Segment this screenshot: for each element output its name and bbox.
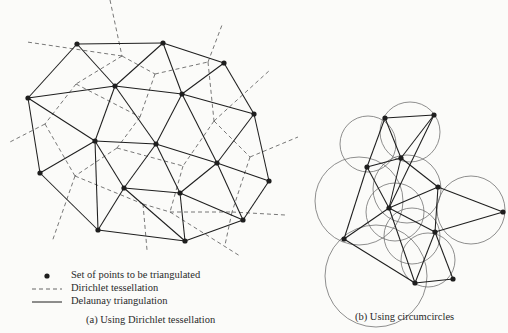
delaunay-edge: [180, 163, 217, 193]
point-marker: [412, 280, 417, 285]
dirichlet-edge: [232, 157, 250, 212]
point-marker: [431, 112, 436, 117]
delaunay-edge: [115, 86, 156, 144]
dirichlet-edge: [250, 137, 298, 157]
caption-left: (a) Using Dirichlet tessellation: [86, 314, 215, 325]
delaunay-edge: [435, 212, 503, 232]
point-marker: [182, 238, 187, 243]
point-marker: [153, 141, 158, 146]
delaunay-edge: [180, 193, 185, 241]
dirichlet-edge: [225, 212, 232, 245]
delaunay-edge: [243, 181, 269, 220]
dirichlet-edge: [183, 121, 214, 166]
delaunay-edge: [98, 188, 124, 230]
point-marker: [251, 111, 256, 116]
delaunay-edge: [344, 239, 415, 283]
point-marker: [121, 185, 126, 190]
delaunay-edge: [28, 44, 77, 98]
delaunay-edge: [224, 63, 254, 114]
figure: Set of points to be triangulated Dirichl…: [0, 0, 508, 333]
delaunay-edge: [217, 114, 254, 163]
delaunay-edge: [115, 43, 163, 86]
dirichlet-edge: [110, 0, 122, 56]
point-marker: [160, 40, 165, 45]
dirichlet-edge: [117, 148, 183, 166]
delaunay-edge: [95, 141, 156, 144]
point-marker: [179, 91, 184, 96]
delaunay-edge: [438, 187, 503, 212]
point-marker: [364, 164, 369, 169]
point-marker: [25, 95, 30, 100]
delaunay-edge: [124, 188, 185, 241]
circumcircle: [437, 176, 505, 244]
circumcircle: [366, 183, 424, 241]
legend-item-delaunay: Delaunay triangulation: [71, 295, 168, 306]
delaunay-edge: [28, 98, 95, 141]
dirichlet-edge: [75, 176, 143, 204]
dirichlet-edge: [52, 176, 75, 242]
delaunay-edge: [124, 144, 156, 188]
dirichlet-edge: [143, 204, 147, 250]
dirichlet-edge: [76, 56, 122, 84]
circumcircles: [315, 102, 505, 327]
delaunay-edge: [401, 115, 434, 158]
point-marker: [500, 209, 505, 214]
legend-item-dirichlet: Dirichlet tessellation: [71, 282, 158, 293]
delaunay-edge: [95, 141, 124, 188]
delaunay-edge: [185, 220, 243, 241]
delaunay-edge: [385, 115, 434, 118]
point-marker: [74, 41, 79, 46]
delaunay-edge: [156, 144, 217, 163]
point-marker: [398, 155, 403, 160]
delaunay-edge: [156, 94, 182, 144]
delaunay-edge: [344, 208, 389, 239]
point-marker: [95, 227, 100, 232]
legend-dot-icon: [44, 273, 49, 278]
point-marker: [432, 229, 437, 234]
delaunay-edge: [367, 118, 385, 167]
delaunay-edge: [124, 188, 180, 193]
point-marker: [266, 178, 271, 183]
circumcircle: [373, 155, 441, 223]
dirichlet-edge: [45, 84, 76, 124]
delaunay-edge: [367, 167, 389, 208]
dirichlet-edge: [140, 74, 155, 117]
delaunay-edge: [254, 114, 269, 181]
dirichlet-edge: [45, 124, 75, 176]
legend-symbols: [32, 273, 62, 302]
legend-item-points: Set of points to be triangulated: [71, 269, 200, 280]
point-set-right: [341, 112, 505, 285]
delaunay-edge: [182, 94, 254, 114]
delaunay-edge: [182, 63, 224, 94]
dirichlet-edge: [208, 25, 222, 62]
point-marker: [341, 236, 346, 241]
point-marker: [214, 160, 219, 165]
delaunay-edge: [435, 232, 453, 279]
delaunay-edge: [344, 167, 367, 239]
delaunay-edge: [156, 144, 180, 193]
delaunay-edge: [182, 94, 217, 163]
point-marker: [386, 205, 391, 210]
point-marker: [37, 170, 42, 175]
delaunay-edge: [95, 86, 115, 141]
delaunay-edge: [163, 43, 224, 63]
delaunay-edge: [115, 86, 182, 94]
circumcircle: [380, 102, 440, 162]
dirichlet-edge: [214, 70, 270, 121]
point-marker: [435, 184, 440, 189]
delaunay-edge: [415, 279, 453, 283]
delaunay-edge: [77, 43, 163, 44]
delaunay-edge: [28, 98, 40, 173]
point-marker: [177, 190, 182, 195]
delaunay-triangulation-left: [28, 43, 269, 241]
point-marker: [382, 115, 387, 120]
caption-right: (b) Using circumcircles: [355, 311, 454, 322]
point-marker: [240, 217, 245, 222]
dirichlet-edge: [8, 124, 45, 143]
point-marker: [221, 60, 226, 65]
dirichlet-tessellation: [8, 0, 298, 256]
point-marker: [112, 83, 117, 88]
dirichlet-edge: [155, 62, 208, 74]
delaunay-edge: [28, 86, 115, 98]
dirichlet-edge: [76, 84, 140, 117]
